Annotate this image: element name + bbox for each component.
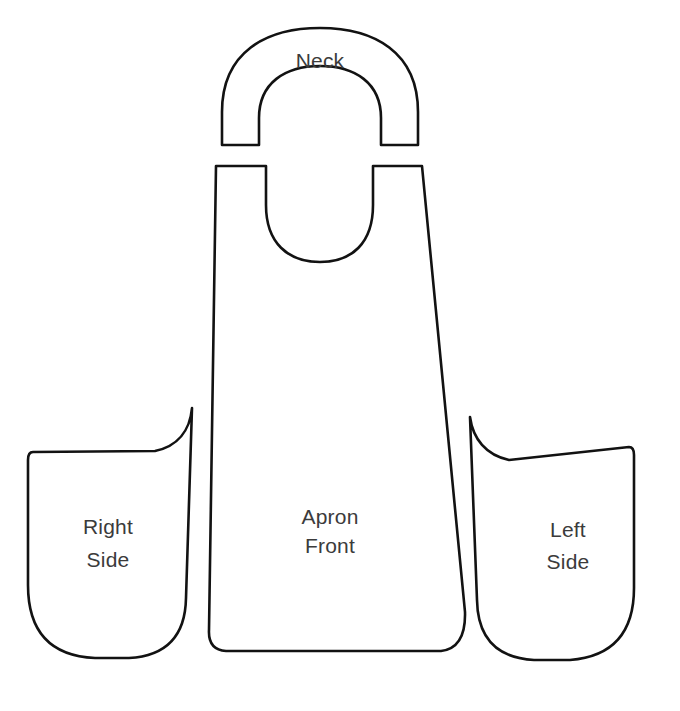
neck-outline-path xyxy=(222,28,418,145)
pattern-diagram-canvas: Neck Apron Front Right Side Left Side xyxy=(0,0,680,711)
right-side-label-line2: Side xyxy=(87,548,130,571)
pattern-piece-right-side: Right Side xyxy=(28,408,192,658)
apron-front-label-line1: Apron xyxy=(301,505,358,528)
pattern-piece-apron-front: Apron Front xyxy=(209,166,465,651)
left-side-label-line1: Left xyxy=(550,518,586,541)
neck-label: Neck xyxy=(296,49,345,72)
pattern-piece-neck: Neck xyxy=(222,28,418,145)
left-side-label-line2: Side xyxy=(547,550,590,573)
pattern-piece-left-side: Left Side xyxy=(470,417,634,660)
right-side-label-line1: Right xyxy=(83,515,133,538)
apron-front-outline-path xyxy=(209,166,465,651)
apron-front-label-line2: Front xyxy=(305,534,355,557)
apron-pattern-drawing: Neck Apron Front Right Side Left Side xyxy=(0,0,680,711)
